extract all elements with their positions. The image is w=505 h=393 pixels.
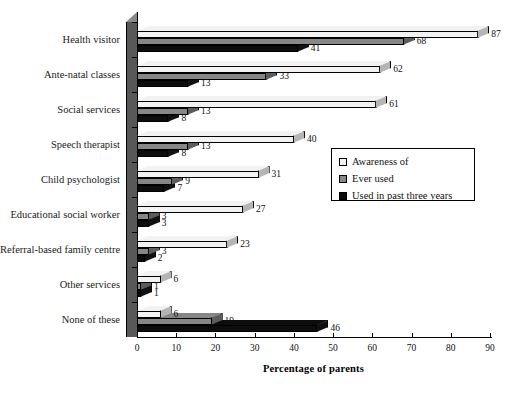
bar-front-face — [137, 241, 227, 248]
x-tick-label: 60 — [368, 344, 378, 354]
bar-front-face — [137, 206, 243, 213]
x-axis-title: Percentage of parents — [263, 364, 364, 375]
x-axis-tick — [412, 333, 413, 337]
bar-front-face — [137, 171, 259, 178]
category-label: Child psychologist — [0, 175, 120, 186]
legend-label: Awareness of — [352, 157, 408, 168]
bar-value-label: 27 — [256, 205, 266, 215]
bar-value-label: 31 — [272, 170, 282, 180]
category-label: Health visitor — [0, 35, 120, 46]
category-label: Social services — [0, 105, 120, 116]
bar-value-label: 87 — [491, 30, 501, 40]
x-tick-label: 0 — [135, 344, 140, 354]
bar-value-label: 13 — [201, 142, 211, 152]
bar-value-label: 46 — [330, 324, 340, 334]
bar — [137, 236, 240, 256]
bar-value-label: 8 — [181, 149, 186, 159]
bar-chart: 0102030405060708090Percentage of parents… — [0, 0, 505, 393]
axis-wall-top — [126, 12, 137, 22]
category-label: Ante-natal classes — [0, 70, 120, 81]
x-tick-label: 90 — [485, 344, 495, 354]
bar-value-label: 2 — [158, 254, 163, 264]
y-axis-back-line — [126, 22, 127, 337]
bar-front-face — [137, 136, 294, 143]
bar-value-label: 13 — [201, 79, 211, 89]
bar-value-label: 62 — [393, 65, 403, 75]
legend-item[interactable]: Awareness of — [339, 157, 408, 168]
bar-value-label: 19 — [225, 317, 235, 327]
x-tick-label: 50 — [328, 344, 338, 354]
bar-value-label: 7 — [177, 184, 182, 194]
bar-value-label: 9 — [185, 177, 190, 187]
bar — [137, 61, 393, 81]
bar-value-label: 68 — [417, 37, 427, 47]
bar-value-label: 41 — [311, 44, 321, 54]
legend-label: Used in past three years — [352, 191, 452, 202]
bar-front-face — [137, 311, 161, 318]
category-label: Speech therapist — [0, 140, 120, 151]
bar — [137, 96, 389, 116]
legend-item[interactable]: Ever used — [339, 174, 394, 185]
x-axis-tick — [372, 333, 373, 337]
x-tick-label: 40 — [289, 344, 299, 354]
x-tick-label: 80 — [446, 344, 456, 354]
legend-swatch — [339, 175, 347, 183]
legend-item[interactable]: Used in past three years — [339, 191, 452, 202]
bar-value-label: 1 — [154, 289, 159, 299]
bar-front-face — [137, 101, 376, 108]
bar — [137, 166, 272, 186]
x-tick-label: 10 — [171, 344, 181, 354]
bar-value-label: 8 — [181, 114, 186, 124]
category-label: Other services — [0, 280, 120, 291]
bar-value-label: 6 — [174, 275, 179, 285]
bar-value-label: 3 — [162, 219, 167, 229]
y-axis-tick — [132, 22, 137, 23]
bar — [137, 201, 256, 221]
category-label: Educational social worker — [0, 210, 120, 221]
bar-front-face — [137, 66, 380, 73]
category-label: None of these — [0, 315, 120, 326]
x-axis-tick — [333, 333, 334, 337]
bar — [137, 306, 174, 326]
x-tick-label: 70 — [407, 344, 417, 354]
bar-value-label: 40 — [307, 135, 317, 145]
bar — [137, 131, 307, 151]
x-tick-label: 20 — [211, 344, 221, 354]
x-axis-tick — [451, 333, 452, 337]
plot-area: 0102030405060708090Percentage of parents… — [0, 0, 505, 393]
category-label: Referral-based family centre — [0, 245, 120, 256]
legend-swatch — [339, 192, 347, 200]
bar-value-label: 6 — [174, 310, 179, 320]
bar-front-face — [137, 31, 478, 38]
axis-wall — [126, 22, 137, 337]
bar-value-label: 23 — [240, 240, 250, 250]
bar-value-label: 33 — [279, 72, 289, 82]
x-axis-tick — [490, 333, 491, 337]
bar-value-label: 13 — [201, 107, 211, 117]
bar-value-label: 61 — [389, 100, 399, 110]
x-tick-label: 30 — [250, 344, 260, 354]
legend-label: Ever used — [352, 174, 394, 185]
legend-swatch — [339, 158, 347, 166]
